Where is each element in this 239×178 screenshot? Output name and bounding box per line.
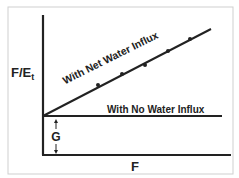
diagram: With Net Water Influx With No Water Infl…: [0, 0, 239, 178]
x-axis-label: F: [131, 159, 139, 174]
g-label: G: [51, 130, 60, 144]
no-influx-label: With No Water Influx: [107, 104, 205, 115]
y-axis-label: F/Et: [11, 65, 34, 82]
frame: [8, 7, 233, 174]
